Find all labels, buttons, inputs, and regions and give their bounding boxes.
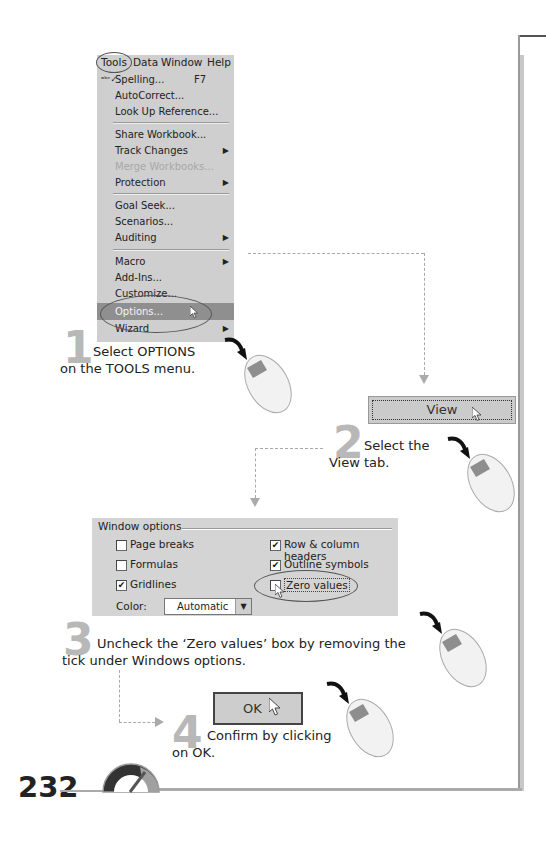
menu-separator [113,193,229,195]
submenu-arrow-icon: ▶ [223,254,229,269]
tools-highlight-ellipse [96,52,132,73]
menu-item-add-ins[interactable]: Add-Ins... [97,270,234,285]
step-4-text-line2: on OK. [172,744,215,761]
window-options-group: Window options Page breaks Formulas ✔ Gr… [92,518,398,616]
check-icon: ✔ [272,560,280,570]
page-breaks-checkbox[interactable] [116,540,127,551]
group-title: Window options [98,520,181,532]
menu-item-auditing[interactable]: Auditing▶ [97,230,234,245]
page-breaks-label: Page breaks [130,538,194,550]
menu-item-macro[interactable]: Macro▶ [97,254,234,269]
arrow-right-icon [155,717,164,727]
connector-line [119,670,120,722]
arrow-down-icon [250,498,260,507]
zero-values-highlight-ellipse [254,570,358,602]
submenu-arrow-icon: ▶ [223,321,229,336]
mouse-click-icon [446,435,521,515]
menu-item-merge-workbooks: Merge Workbooks... [97,159,234,174]
chevron-down-icon[interactable]: ▼ [235,599,251,614]
menubar-window[interactable]: Window [161,56,202,68]
formulas-label: Formulas [130,558,178,570]
check-icon: ✔ [118,580,126,590]
cursor-arrow-icon [472,407,483,422]
menu-item-autocorrect[interactable]: AutoCorrect... [97,88,234,103]
menubar-data[interactable]: Data [133,56,158,68]
connector-line [248,253,424,254]
mouse-click-icon [325,680,400,760]
step-3-text-line2: tick under Windows options. [62,652,246,669]
step-2-text-line1: Select the [364,437,430,454]
page-number: 232 [18,770,79,804]
menu-item-track-changes[interactable]: Track Changes▶ [97,143,234,158]
row-column-headers-checkbox[interactable]: ✔ [270,540,281,551]
step-1-text-line2: on the TOOLS menu. [60,360,195,377]
mouse-click-icon [223,336,298,416]
outline-symbols-label: Outline symbols [284,558,369,570]
submenu-arrow-icon: ▶ [223,143,229,158]
connector-line [424,253,425,375]
page-frame-shadow [520,55,524,791]
menu-item-share-workbook[interactable]: Share Workbook... [97,127,234,142]
outline-symbols-checkbox[interactable]: ✔ [270,560,281,571]
arrow-down-icon [419,375,429,384]
step-3-text-line1: Uncheck the ‘Zero values’ box by removin… [97,635,406,652]
page-frame-top [519,35,546,37]
step-4-text-line1: Confirm by clicking [207,727,332,744]
submenu-arrow-icon: ▶ [223,230,229,245]
check-icon: ✔ [272,540,280,550]
menu-item-scenarios[interactable]: Scenarios... [97,214,234,229]
view-tab[interactable]: View [368,396,516,424]
cursor-arrow-icon [275,584,286,599]
step-2-text-line2: View tab. [329,454,389,471]
connector-line [119,722,155,723]
ok-button[interactable]: OK [213,692,303,725]
page-frame-bottom [130,788,522,791]
menu-separator [113,122,229,124]
menubar-help[interactable]: Help [207,56,231,68]
step-1-text-line1: Select OPTIONS [93,343,195,360]
options-highlight-ellipse [100,295,212,333]
connector-line [255,448,323,449]
menu-separator [113,249,229,251]
connector-line [255,448,256,498]
gridlines-label: Gridlines [130,578,176,590]
menu-item-goal-seek[interactable]: Goal Seek... [97,198,234,213]
menu-item-spelling[interactable]: ᵃᵇᶜ✓ Spelling... F7 [97,72,234,87]
mouse-click-icon [418,610,493,690]
tools-menu: Tools Data Window Help ᵃᵇᶜ✓ Spelling... … [97,55,234,342]
speedometer-icon [100,762,162,794]
cursor-arrow-icon [269,698,282,717]
color-dropdown[interactable]: Automatic ▼ [164,598,252,615]
menu-item-protection[interactable]: Protection▶ [97,175,234,190]
formulas-checkbox[interactable] [116,560,127,571]
color-label: Color: [116,600,147,612]
menu-item-look-up-reference[interactable]: Look Up Reference... [97,104,234,119]
submenu-arrow-icon: ▶ [223,175,229,190]
group-divider [182,528,392,530]
gridlines-checkbox[interactable]: ✔ [116,580,127,591]
